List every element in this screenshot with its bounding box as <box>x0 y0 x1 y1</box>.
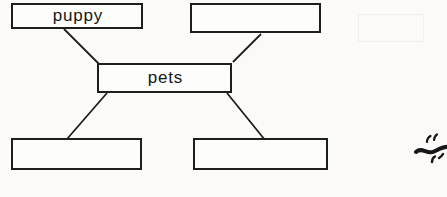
edge-pets-puppy <box>64 29 99 64</box>
edge-pets-bottom-left <box>67 93 107 139</box>
node-bottom-left <box>11 138 142 170</box>
node-bottom-right <box>193 138 328 170</box>
edge-pets-top-right <box>233 34 261 62</box>
node-top-right <box>190 3 321 33</box>
node-puppy-label: puppy <box>53 6 103 26</box>
edge-pets-bottom-right <box>227 93 265 140</box>
node-puppy: puppy <box>11 3 143 29</box>
worksheet-canvas: puppy pets <box>0 0 447 197</box>
node-pets: pets <box>97 63 232 93</box>
bleed-through-box <box>358 14 424 42</box>
node-pets-label: pets <box>148 68 183 88</box>
